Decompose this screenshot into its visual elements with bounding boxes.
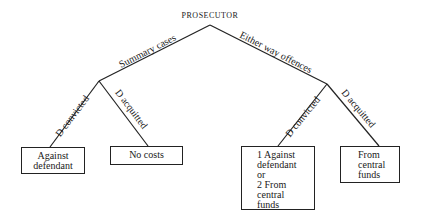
outcome-box-against-defendant-or-central-funds: 1 Against defendant or 2 From central fu… — [241, 146, 315, 210]
outcome-text: funds — [257, 200, 308, 210]
outcome-text: funds — [358, 170, 393, 180]
root-node-prosecutor: PROSECUTOR — [160, 11, 260, 20]
outcome-text: No costs — [117, 150, 176, 160]
outcome-text: defendant — [28, 161, 78, 171]
outcome-box-from-central-funds: From central funds — [340, 146, 400, 183]
outcome-box-against-defendant: Against defendant — [21, 147, 85, 174]
outcome-box-no-costs: No costs — [110, 146, 183, 165]
